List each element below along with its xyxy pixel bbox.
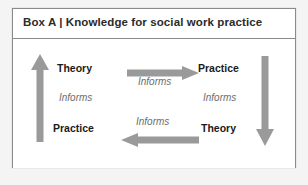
figure-box: Box A | Knowledge for social work practi… <box>12 8 296 168</box>
label-informs-bottom: Informs <box>136 116 169 127</box>
label-informs-left: Informs <box>59 92 92 103</box>
figure-header: Box A | Knowledge for social work practi… <box>13 9 295 39</box>
arrow-down-icon <box>256 56 274 146</box>
label-theory-right: Theory <box>201 122 236 134</box>
cycle-diagram: Theory Informs Practice Practice Informs… <box>13 40 295 168</box>
label-informs-top: Informs <box>138 76 171 87</box>
arrow-left-icon <box>121 133 199 147</box>
label-practice-right: Practice <box>198 62 239 74</box>
arrow-up-icon <box>31 54 49 142</box>
label-theory-left: Theory <box>57 62 92 74</box>
page-title: Box A | Knowledge for social work practi… <box>23 16 262 28</box>
label-practice-left: Practice <box>53 122 94 134</box>
label-informs-right: Informs <box>203 92 236 103</box>
